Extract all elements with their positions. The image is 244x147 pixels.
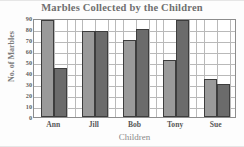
y-tick-label: 10 (18, 104, 32, 110)
y-tick-label: 90 (18, 16, 32, 22)
bar (82, 31, 95, 117)
bar (54, 68, 67, 118)
plot-area (33, 19, 236, 118)
bar (217, 84, 230, 117)
gridline-vertical (149, 20, 150, 117)
x-axis-title: Children (33, 131, 236, 143)
gridline-vertical (196, 20, 197, 117)
x-tick-label: Ann (33, 119, 74, 130)
x-tick-label: Sue (195, 119, 236, 130)
gridline-vertical (108, 20, 109, 117)
y-tick-label: 70 (18, 38, 32, 44)
y-axis-title: No. of Marbles (7, 27, 16, 87)
gridline-vertical (115, 20, 116, 117)
y-tick-label: 0 (18, 115, 32, 121)
y-tick-label: 80 (18, 27, 32, 33)
y-tick-label: 30 (18, 82, 32, 88)
bar (204, 79, 217, 118)
bar (123, 40, 136, 117)
x-tick-label: Jill (74, 119, 115, 130)
gridline-vertical (230, 20, 231, 117)
gridline-vertical (75, 20, 76, 117)
x-axis-tick-labels: AnnJillBobTonySue (33, 119, 236, 131)
x-tick-label: Tony (155, 119, 196, 130)
bar-chart: Marbles Collected by the Children No. of… (0, 0, 244, 147)
y-tick-label: 40 (18, 71, 32, 77)
bottom-edge-rule (0, 146, 244, 147)
x-tick-label: Bob (114, 119, 155, 130)
y-tick-label: 20 (18, 93, 32, 99)
bar (41, 20, 54, 117)
chart-title: Marbles Collected by the Children (0, 1, 244, 14)
bar (176, 20, 189, 117)
gridline-vertical (189, 20, 190, 117)
gridline-vertical (156, 20, 157, 117)
bar (163, 60, 176, 117)
y-tick-label: 50 (18, 60, 32, 66)
y-axis-tick-labels: 9080706050403020100 (18, 16, 32, 120)
bar (136, 29, 149, 117)
y-tick-label: 60 (18, 49, 32, 55)
bar (95, 31, 108, 117)
